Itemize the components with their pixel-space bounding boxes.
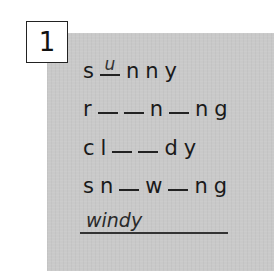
letter: c [83, 138, 95, 159]
letter: d [164, 138, 177, 159]
letter: g [214, 99, 227, 120]
blank[interactable] [168, 176, 188, 191]
letter: n [126, 61, 139, 82]
answer-text: windy [86, 211, 142, 230]
filled-letter: u [100, 56, 120, 73]
letter: g [214, 176, 227, 197]
letter: s [83, 61, 94, 82]
blank[interactable] [112, 138, 132, 153]
letter: y [165, 61, 177, 82]
blank[interactable] [169, 99, 189, 114]
answer-line[interactable]: windy [80, 208, 228, 234]
letter: n [195, 99, 208, 120]
letter: l [101, 138, 107, 159]
letter: y [184, 138, 196, 159]
exercise-number: 1 [39, 29, 56, 55]
blank[interactable] [98, 99, 118, 114]
word-row-cloudy: c l d y [83, 135, 202, 159]
blank[interactable] [138, 138, 158, 153]
letter: w [145, 176, 162, 197]
letter: n [100, 176, 113, 197]
letter: n [145, 61, 158, 82]
blank[interactable] [119, 176, 139, 191]
word-row-raining: r n n g [83, 96, 234, 120]
letter: n [150, 99, 163, 120]
letter: n [194, 176, 207, 197]
letter: r [83, 99, 92, 120]
blank[interactable] [124, 99, 144, 114]
word-row-snowing: s n w n g [83, 173, 233, 197]
blank-filled[interactable]: u [100, 61, 120, 76]
word-row-sunny: s u n n y [83, 58, 183, 82]
exercise-number-box: 1 [26, 21, 68, 63]
letter: s [83, 176, 94, 197]
